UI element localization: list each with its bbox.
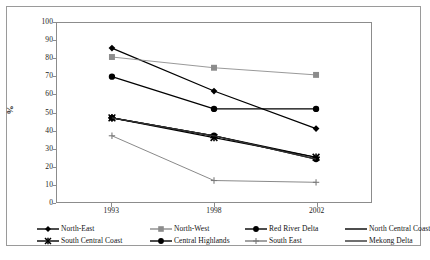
legend-item[interactable]: South Central Coast [37, 235, 122, 247]
square-marker-icon [109, 54, 115, 60]
star-marker-icon [37, 236, 59, 246]
x-tick-mark [214, 203, 215, 207]
x-tick-mark [317, 203, 318, 207]
circle-marker-icon [211, 106, 217, 112]
circle-marker-icon [245, 224, 267, 234]
y-axis-title: % [5, 105, 15, 114]
legend-item[interactable]: North Central Coast [345, 223, 430, 235]
y-tick-mark [53, 203, 56, 204]
legend-item-label: North Central Coast [369, 224, 430, 234]
series-central-highlands [109, 115, 319, 162]
circle-marker-icon [313, 106, 319, 112]
x-axis-tick-labels: 199319982002 [56, 206, 372, 220]
diamond-marker-icon [211, 88, 218, 95]
legend-item[interactable]: Red River Delta [245, 223, 319, 235]
y-tick-label: 100 [23, 18, 53, 26]
y-tick-label: 70 [23, 72, 53, 80]
y-tick-mark [53, 113, 56, 114]
x-tick-label: 1998 [194, 206, 234, 215]
y-tick-mark [53, 94, 56, 95]
legend-item-label: Central Highlands [174, 236, 230, 246]
plot-series-svg [57, 23, 371, 202]
y-tick-mark [53, 167, 56, 168]
legend-item-label: South Central Coast [61, 236, 122, 246]
y-axis-tick-labels: 1009080706050403020100 [23, 22, 53, 203]
diamond-marker-icon [109, 45, 116, 52]
square-marker-icon [150, 224, 172, 234]
x-tick-mark [111, 203, 112, 207]
y-tick-mark [53, 131, 56, 132]
legend-item[interactable]: North-West [150, 223, 209, 235]
legend-item-label: Red River Delta [269, 224, 319, 234]
y-tick-mark [53, 149, 56, 150]
plus-marker-icon [211, 177, 217, 183]
y-tick-mark [53, 22, 56, 23]
y-tick-label: 80 [23, 54, 53, 62]
y-tick-label: 60 [23, 90, 53, 98]
y-tick-mark [53, 76, 56, 77]
plus-marker-icon [109, 133, 115, 139]
chart-legend: North-EastNorth-WestRed River DeltaNorth… [15, 223, 414, 247]
y-tick-label: 30 [23, 145, 53, 153]
legend-row-1: North-EastNorth-WestRed River DeltaNorth… [15, 223, 414, 235]
y-tick-mark [53, 40, 56, 41]
square-marker-icon [211, 65, 217, 71]
dot-marker-icon [150, 236, 172, 246]
y-tick-label: 50 [23, 109, 53, 117]
circle-marker-icon [109, 74, 115, 80]
y-tick-label: 40 [23, 127, 53, 135]
diamond-marker-icon [313, 125, 320, 132]
legend-item[interactable]: North-East [37, 223, 94, 235]
y-tick-label: 10 [23, 181, 53, 189]
y-tick-label: 90 [23, 36, 53, 44]
plain-line-marker-icon [345, 236, 367, 246]
diamond-marker-icon [37, 224, 59, 234]
plus-marker-icon [245, 236, 267, 246]
legend-item[interactable]: Central Highlands [150, 235, 230, 247]
line-marker-icon [345, 224, 367, 234]
series-line [112, 136, 316, 183]
series-north-east [109, 45, 320, 132]
x-tick-label: 1993 [91, 206, 131, 215]
legend-item-label: Mekong Delta [369, 236, 413, 246]
plot-area [56, 22, 372, 203]
legend-item-label: North-West [174, 224, 209, 234]
legend-row-2: South Central CoastCentral HighlandsSout… [15, 235, 414, 247]
series-north-west [109, 54, 319, 78]
legend-item-label: North-East [61, 224, 94, 234]
plus-marker-icon [313, 179, 319, 185]
y-tick-mark [53, 58, 56, 59]
legend-item[interactable]: South East [245, 235, 302, 247]
y-tick-label: 20 [23, 163, 53, 171]
square-marker-icon [313, 72, 319, 78]
legend-item-label: South East [269, 236, 302, 246]
y-tick-label: 0 [23, 199, 53, 207]
y-tick-mark [53, 185, 56, 186]
legend-item[interactable]: Mekong Delta [345, 235, 413, 247]
chart-figure: % 1009080706050403020100 199319982002 No… [6, 6, 421, 246]
x-tick-label: 2002 [297, 206, 337, 215]
